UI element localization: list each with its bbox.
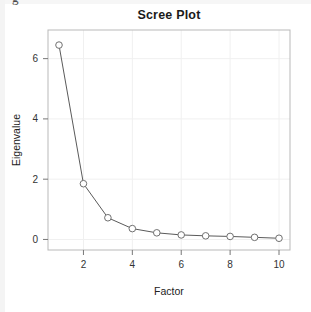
data-point-marker [251,234,258,241]
data-series-eigenvalue [56,42,283,242]
y-tick-label: 2 [32,174,38,185]
series-line [59,45,279,238]
x-tick-label: 6 [178,259,184,270]
y-tick-label: 4 [32,113,38,124]
x-tick-label: 10 [273,259,285,270]
data-point-marker [105,214,112,221]
data-point-marker [227,233,234,240]
data-point-marker [80,180,87,187]
data-point-marker [276,235,283,242]
gridlines [48,30,290,250]
x-tick-label: 4 [130,259,136,270]
x-tick-label: 2 [81,259,87,270]
plot-canvas: 2468100246 Factor Eigenvalue [0,0,311,312]
scree-plot-figure: g Scree Plot 2468100246 Factor Eigenvalu… [0,0,311,312]
data-point-marker [56,42,63,49]
y-tick-label: 0 [32,234,38,245]
plot-frame [48,30,290,250]
x-axis-title: Factor [154,285,184,297]
x-tick-label: 8 [227,259,233,270]
y-axis-title: Eigenvalue [10,114,22,166]
data-point-marker [129,225,136,232]
data-point-marker [153,230,160,237]
y-tick-label: 6 [32,53,38,64]
data-point-marker [202,233,209,240]
plot-border [48,30,290,250]
data-point-marker [178,232,185,239]
